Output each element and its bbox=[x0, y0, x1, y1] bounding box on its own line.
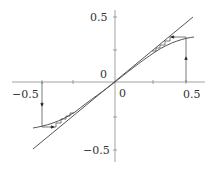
x-tick-label-neg: −0.5 bbox=[12, 89, 39, 100]
x-tick-label-pos: 0.5 bbox=[183, 89, 201, 100]
y-tick-label-zero: 0 bbox=[100, 69, 107, 80]
y-tick-label-pos: 0.5 bbox=[90, 12, 108, 23]
y-tick-label-neg: −0.5 bbox=[83, 145, 110, 156]
axes bbox=[12, 10, 205, 162]
x-tick-label-zero: 0 bbox=[119, 88, 126, 99]
cobweb-left bbox=[42, 82, 74, 127]
